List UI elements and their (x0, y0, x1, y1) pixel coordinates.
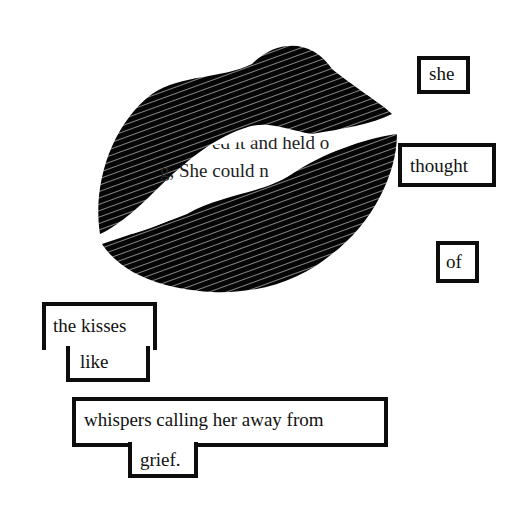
word-she: she (429, 64, 454, 83)
word-of: of (446, 252, 462, 271)
word-grief: grief. (140, 450, 181, 469)
word-like: like (80, 352, 109, 371)
word-thought: thought (410, 156, 468, 175)
box-edge (194, 443, 388, 447)
page-fragment-line-2: g, She could n (160, 160, 269, 182)
box-edge (72, 443, 132, 447)
word-whispers-line: whispers calling her away from (84, 410, 324, 429)
word-the-kisses: the kisses (53, 316, 126, 335)
poem-canvas: ed it and held o g, She could n she thou… (0, 0, 527, 510)
